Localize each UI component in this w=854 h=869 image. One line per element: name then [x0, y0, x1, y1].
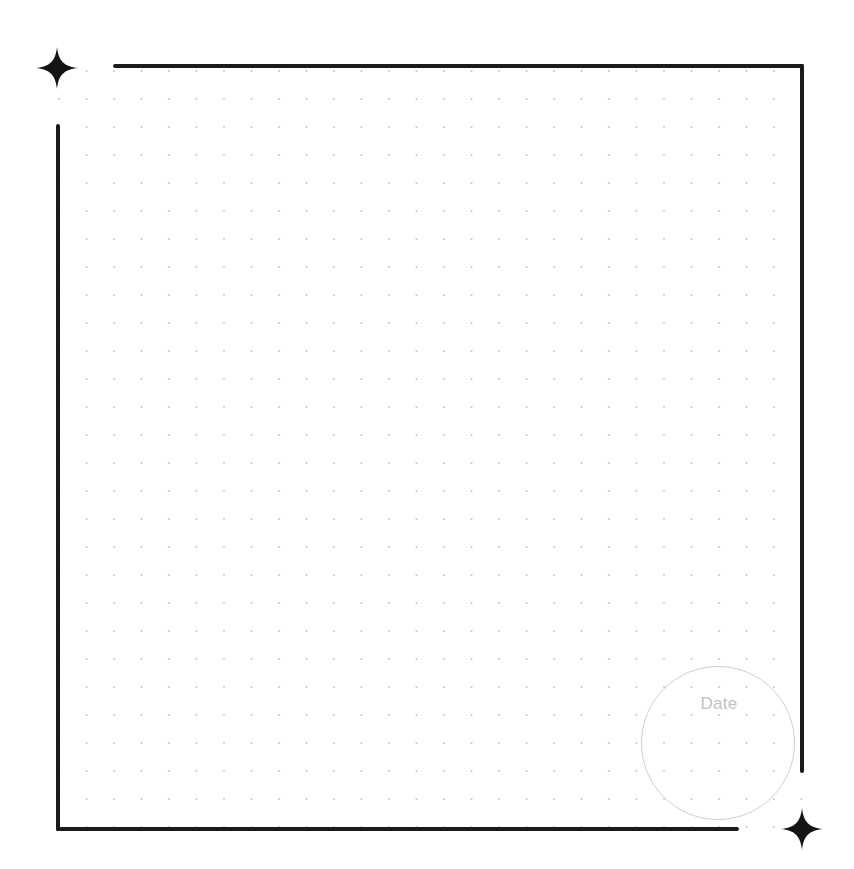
sparkle-icon	[36, 47, 78, 89]
journal-page: Date	[0, 0, 854, 869]
frame-left-border	[56, 124, 60, 831]
date-stamp-circle[interactable]: Date	[641, 666, 795, 820]
frame-top-border	[113, 64, 804, 68]
frame-right-border	[800, 64, 804, 773]
date-label: Date	[642, 694, 796, 714]
frame-bottom-border	[56, 827, 739, 831]
sparkle-icon	[781, 808, 823, 850]
